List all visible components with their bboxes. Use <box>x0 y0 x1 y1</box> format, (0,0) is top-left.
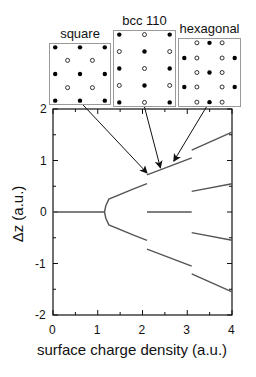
data-series-line <box>192 184 232 192</box>
x-tick-label: 1 <box>94 324 101 336</box>
y-tick-label: -2 <box>35 309 46 321</box>
x-tick-label: 0 <box>49 324 56 336</box>
x-tick-label: 4 <box>228 324 235 336</box>
data-series-line <box>147 249 192 266</box>
x-tick-label: 3 <box>183 324 190 336</box>
data-series-line <box>192 132 232 150</box>
data-series-line <box>105 184 148 212</box>
annotation-arrow <box>174 107 207 161</box>
y-tick-label: 2 <box>40 103 47 115</box>
data-series-line <box>192 274 232 292</box>
data-series-line <box>192 233 232 241</box>
x-tick-label: 2 <box>139 324 146 336</box>
annotation-arrow <box>83 105 147 173</box>
data-series-line <box>147 158 192 175</box>
annotation-arrow <box>145 107 161 168</box>
y-tick-label: 0 <box>40 206 47 218</box>
y-tick-label: 1 <box>40 155 47 167</box>
data-series-line <box>105 212 148 240</box>
y-tick-label: -1 <box>35 258 46 270</box>
y-axis-label: Δz (a.u.) <box>10 174 26 254</box>
x-axis-label: surface charge density (a.u.) <box>37 342 227 358</box>
